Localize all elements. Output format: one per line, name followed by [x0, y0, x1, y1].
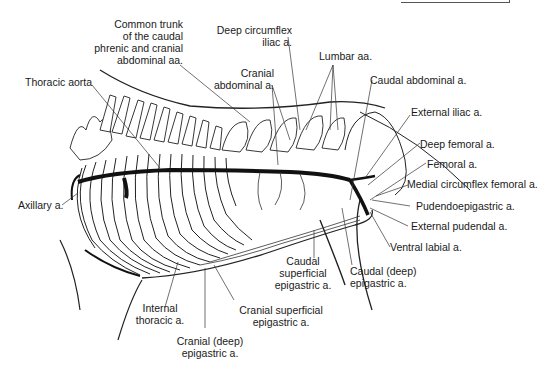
label-line: thoracic a. [130, 314, 190, 326]
label-line: superficial [272, 267, 334, 279]
label-pudendoepigastric: Pudendoepigastric a. [416, 200, 515, 212]
label-external-iliac: External iliac a. [411, 106, 482, 118]
label-line: Caudal (deep) [350, 265, 417, 277]
label-common-trunk: Common trunk of the caudal phrenic and c… [88, 18, 183, 66]
label-deep-circumflex-iliac: Deep circumflex iliac a. [210, 24, 292, 48]
label-line: Cranial superficial [233, 304, 329, 316]
label-line: abdominal aa. [88, 54, 183, 66]
label-external-pudendal: External pudendal a. [411, 220, 507, 232]
label-axillary: Axillary a. [18, 199, 64, 211]
anatomy-figure: Common trunk of the caudal phrenic and c… [0, 0, 548, 375]
label-line: of the caudal [88, 30, 183, 42]
label-line: epigastric a. [272, 279, 334, 291]
label-line: Cranial (deep) [174, 335, 246, 347]
label-thoracic-aorta: Thoracic aorta [25, 76, 92, 88]
label-line: Deep circumflex [210, 24, 292, 36]
label-line: abdominal a. [212, 79, 274, 91]
label-caudal-deep-epigastric: Caudal (deep) epigastric a. [350, 265, 417, 289]
label-cranial-superficial-epigastric: Cranial superficial epigastric a. [233, 304, 329, 328]
label-line: epigastric a. [174, 347, 246, 359]
label-internal-thoracic: Internal thoracic a. [130, 302, 190, 326]
label-line: Internal [130, 302, 190, 314]
label-lumbar: Lumbar aa. [319, 50, 372, 62]
label-caudal-superficial-epigastric: Caudal superficial epigastric a. [272, 255, 334, 291]
label-cranial-deep-epigastric: Cranial (deep) epigastric a. [174, 335, 246, 359]
label-line: iliac a. [210, 36, 292, 48]
label-line: Common trunk [88, 18, 183, 30]
label-line: Caudal [272, 255, 334, 267]
label-caudal-abdominal: Caudal abdominal a. [370, 74, 466, 86]
label-cranial-abdominal: Cranial abdominal a. [212, 67, 274, 91]
label-line: phrenic and cranial [88, 42, 183, 54]
label-line: epigastric a. [350, 277, 417, 289]
label-ventral-labial: Ventral labial a. [390, 241, 462, 253]
label-line: epigastric a. [233, 316, 329, 328]
label-medial-circumflex-femoral: Medial circumflex femoral a. [407, 178, 538, 190]
label-femoral: Femoral a. [427, 158, 477, 170]
label-deep-femoral: Deep femoral a. [420, 138, 495, 150]
label-line: Cranial [212, 67, 274, 79]
